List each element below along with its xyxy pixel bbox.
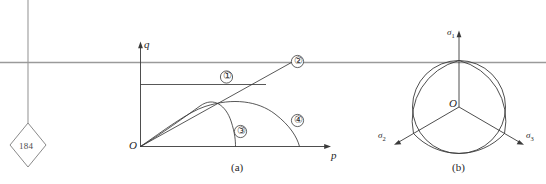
curve-3-arc	[141, 102, 236, 147]
sigma1-subscript: 1	[451, 32, 454, 39]
curve-label-3: ③	[237, 127, 246, 137]
sigma3-subscript: 3	[530, 135, 533, 142]
panel-a-x-axis-label: p	[331, 150, 337, 161]
curve-label-4: ④	[294, 116, 303, 126]
curve-label-1: ①	[223, 72, 232, 82]
yield-locus-arc-bottom	[414, 134, 505, 154]
panel-a-origin-label: O	[129, 140, 137, 151]
sigma2-axis-label: σ2	[378, 131, 386, 142]
panel-a-caption: (a)	[231, 162, 243, 173]
panel-a-y-axis-label: q	[144, 39, 150, 50]
figure-root: 184 q p O ① ② ③ ④ (a) σ1 σ2 σ3 O (b)	[0, 0, 546, 184]
sigma3-axis	[459, 107, 524, 145]
sigma1-axis	[457, 31, 462, 108]
yield-locus-arc-top-right	[459, 61, 506, 134]
figure-canvas	[0, 0, 546, 184]
curve-4-arc	[141, 101, 300, 146]
panel-b	[394, 31, 524, 154]
sigma1-axis-label: σ1	[447, 28, 455, 39]
sigma3-axis-label: σ3	[526, 131, 534, 142]
panel-b-origin-label: O	[449, 98, 457, 109]
page-marker-number: 184	[19, 141, 33, 151]
q-axis	[138, 42, 143, 148]
registration-rules	[0, 0, 546, 167]
sigma2-axis	[394, 107, 459, 145]
curve-label-2: ②	[294, 57, 303, 67]
sigma2-subscript: 2	[382, 135, 385, 142]
panel-b-caption: (b)	[452, 162, 465, 173]
